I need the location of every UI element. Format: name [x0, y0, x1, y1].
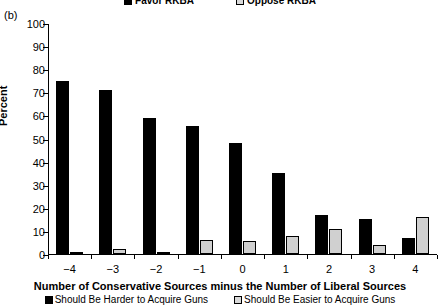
y-tick-label: 20 — [33, 203, 45, 214]
bar — [402, 238, 415, 254]
y-tick-label: 80 — [33, 65, 45, 76]
bar — [157, 252, 170, 254]
bar — [143, 118, 156, 254]
y-tick-label: 0 — [39, 250, 45, 261]
y-tick-label: 60 — [33, 111, 45, 122]
bar-group — [359, 24, 386, 254]
x-tick — [394, 255, 395, 259]
top-legend-item-oppose: Oppose RKBA — [236, 0, 316, 6]
bar — [329, 229, 342, 254]
bar — [56, 81, 69, 254]
chart-plot-area: 0102030405060708090100 −4−3−2−101234 — [48, 24, 437, 255]
x-tick-label: 3 — [369, 264, 375, 275]
top-legend-label-favor: Favor RKBA — [135, 0, 194, 6]
y-tick-label: 70 — [33, 88, 45, 99]
bar — [186, 126, 199, 254]
bar — [272, 173, 285, 254]
legend-label-harder: Should Be Harder to Acquire Guns — [55, 294, 208, 305]
bar — [416, 217, 429, 254]
x-tick — [91, 255, 92, 259]
top-legend-label-oppose: Oppose RKBA — [247, 0, 316, 6]
y-tick-label: 50 — [33, 134, 45, 145]
x-tick — [178, 255, 179, 259]
legend-label-easier: Should Be Easier to Acquire Guns — [244, 294, 395, 305]
x-tick-label: 0 — [239, 264, 245, 275]
bar — [200, 240, 213, 254]
bar — [286, 236, 299, 254]
x-tick-label: 2 — [326, 264, 332, 275]
bar-group — [56, 24, 83, 254]
bar — [229, 143, 242, 254]
x-tick-label: −4 — [63, 264, 76, 275]
x-tick-label: −2 — [150, 264, 163, 275]
y-tick-label: 100 — [27, 19, 45, 30]
panel-label: (b) — [4, 9, 17, 21]
x-tick-label: −1 — [193, 264, 206, 275]
x-tick — [351, 255, 352, 259]
legend-item-easier[interactable]: Should Be Easier to Acquire Guns — [234, 294, 395, 305]
x-tick — [307, 255, 308, 259]
x-tick — [48, 255, 49, 259]
y-tick-label: 30 — [33, 180, 45, 191]
x-axis-title: Number of Conservative Sources minus the… — [0, 280, 440, 292]
y-axis-title: Percent — [0, 86, 9, 126]
x-tick-label: 4 — [412, 264, 418, 275]
bar — [99, 90, 112, 254]
bar-group — [186, 24, 213, 254]
bar — [315, 215, 328, 254]
top-legend: Favor RKBA Oppose RKBA — [0, 0, 440, 7]
bar-group — [272, 24, 299, 254]
bar-group — [315, 24, 342, 254]
bar — [359, 219, 372, 254]
filled-square-icon — [45, 296, 53, 304]
y-axis-line — [48, 24, 49, 255]
chart-legend: Should Be Harder to Acquire Guns Should … — [0, 294, 440, 305]
bar — [243, 241, 256, 254]
bar-group — [143, 24, 170, 254]
top-legend-item-favor: Favor RKBA — [124, 0, 194, 6]
bar — [70, 252, 83, 254]
bar-group — [99, 24, 126, 254]
bar — [113, 249, 126, 254]
legend-item-harder[interactable]: Should Be Harder to Acquire Guns — [45, 294, 208, 305]
x-tick-label: 1 — [283, 264, 289, 275]
x-tick — [264, 255, 265, 259]
x-tick — [221, 255, 222, 259]
x-axis-line — [48, 254, 437, 255]
bar — [373, 245, 386, 254]
x-tick — [437, 255, 438, 259]
open-square-icon — [236, 0, 244, 5]
bar-group — [229, 24, 256, 254]
bar-group — [402, 24, 429, 254]
filled-square-icon — [124, 0, 132, 5]
y-tick-label: 10 — [33, 226, 45, 237]
open-square-icon — [234, 296, 242, 304]
x-tick-label: −3 — [107, 264, 120, 275]
y-tick-label: 40 — [33, 157, 45, 168]
y-tick-label: 90 — [33, 42, 45, 53]
x-tick — [134, 255, 135, 259]
